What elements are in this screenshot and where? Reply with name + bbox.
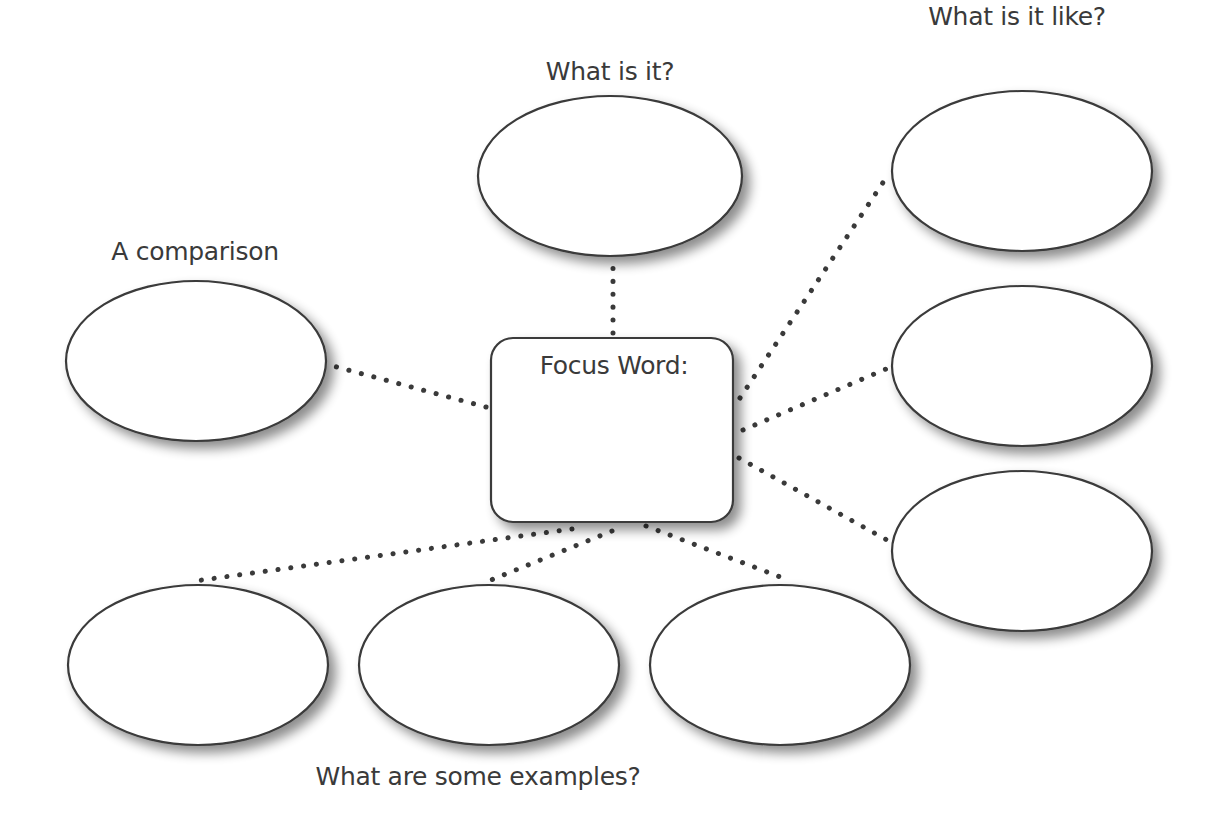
label-what-is-it: What is it?	[546, 57, 674, 86]
answer-oval-comparison[interactable]	[66, 281, 326, 441]
label-examples: What are some examples?	[315, 762, 640, 791]
label-comparison: A comparison	[111, 237, 278, 266]
answer-oval-like-2[interactable]	[892, 286, 1152, 446]
dotted-connector-example-3	[646, 526, 783, 578]
answer-oval-like-1[interactable]	[892, 91, 1152, 251]
dotted-connector-like-1	[740, 178, 886, 398]
dotted-connector-like-3	[739, 458, 887, 540]
answer-oval-example-3[interactable]	[650, 585, 910, 745]
answer-oval-example-1[interactable]	[68, 585, 328, 745]
label-focus-word: Focus Word:	[540, 351, 689, 380]
answer-oval-example-2[interactable]	[359, 585, 619, 745]
dotted-connector-comparison	[333, 366, 486, 407]
concept-map-diagram: What is it? What is it like? A compariso…	[0, 0, 1223, 829]
answer-oval-like-3[interactable]	[892, 471, 1152, 631]
label-what-is-it-like: What is it like?	[928, 2, 1106, 31]
dotted-connector-like-2	[743, 369, 886, 430]
answer-oval-what-is-it[interactable]	[478, 96, 742, 256]
dotted-connector-example-1	[195, 529, 572, 581]
